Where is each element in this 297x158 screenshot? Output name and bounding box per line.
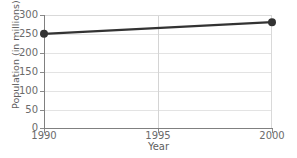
x-axis-title: Year xyxy=(44,142,273,152)
y-axis-tick-label: 100 xyxy=(19,86,38,96)
y-axis-tick-label: 250 xyxy=(19,29,38,39)
chart-screenshot: 300 250 200 150 100 50 0 1990 1995 2000 … xyxy=(0,0,297,158)
y-axis-tick xyxy=(40,53,44,54)
y-axis-tick-label: 150 xyxy=(19,67,38,77)
y-axis-tick xyxy=(40,91,44,92)
y-axis-tick-label: 200 xyxy=(19,48,38,58)
x-axis-tick-label: 1990 xyxy=(28,131,60,141)
y-axis-tick xyxy=(40,15,44,16)
x-axis-tick-label: 1995 xyxy=(142,131,174,141)
y-axis-line xyxy=(44,15,45,129)
y-axis-title: Population (in millions) xyxy=(11,9,21,109)
y-axis-tick-label: 300 xyxy=(19,10,38,20)
y-axis-tick xyxy=(40,72,44,73)
y-axis-tick-label: 50 xyxy=(25,105,38,115)
plot-area xyxy=(44,15,272,128)
x-axis-tick-label: 2000 xyxy=(256,131,288,141)
y-axis-tick xyxy=(40,110,44,111)
y-axis-tick xyxy=(40,34,44,35)
gridline-vertical xyxy=(158,16,159,128)
